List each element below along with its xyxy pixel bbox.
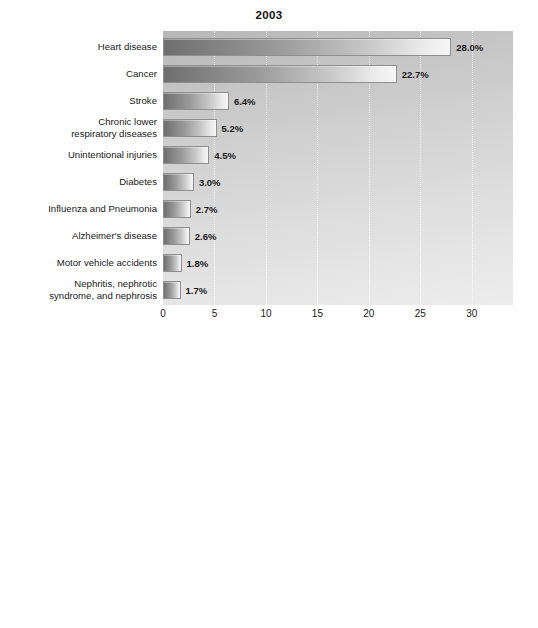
bar (163, 119, 217, 137)
bar (163, 200, 191, 218)
plot-area-2003: 28.0%22.7%6.4%5.2%4.5%3.0%2.7%2.6%1.8%1.… (163, 31, 513, 305)
category-label: Nephritis, nephroticsyndrome, and nephro… (0, 276, 157, 303)
bar-row: 6.4% (163, 92, 513, 110)
bar (163, 227, 190, 245)
bar (163, 146, 209, 164)
bar-value-label: 2.7% (196, 203, 218, 214)
bar-row: 28.0% (163, 38, 513, 56)
category-label-line: Heart disease (0, 41, 157, 52)
category-label-line: Motor vehicle accidents (0, 257, 157, 268)
bar (163, 65, 397, 83)
chart-1900: 1900 11.8%11.3%8.3%6.2%5.2%4.2%3.7%2.9%2… (0, 330, 538, 628)
bar (163, 254, 182, 272)
bar-row: 3.0% (163, 173, 513, 191)
bar-row: 4.5% (163, 146, 513, 164)
category-label-line: Influenza and Pneumonia (0, 203, 157, 214)
bar-series-2003: 28.0%22.7%6.4%5.2%4.5%3.0%2.7%2.6%1.8%1.… (163, 31, 513, 305)
bar-value-label: 1.7% (186, 284, 208, 295)
x-tick-label: 15 (312, 308, 323, 319)
category-labels-2003: Heart diseaseCancerStrokeChronic lowerre… (0, 31, 157, 305)
category-label-line: Stroke (0, 95, 157, 106)
category-label-line: Chronic lower (0, 116, 157, 127)
bar (163, 281, 181, 299)
bar-row: 1.7% (163, 281, 513, 299)
bar-row: 2.6% (163, 227, 513, 245)
category-label: Alzheimer's disease (0, 222, 157, 249)
chart-2003: 2003 28.0%22.7%6.4%5.2%4.5%3.0%2.7%2.6%1… (0, 0, 538, 330)
bar-value-label: 22.7% (402, 68, 429, 79)
x-axis-2003: 051015202530 (163, 306, 513, 322)
category-label-line: Unintentional injuries (0, 149, 157, 160)
category-label: Stroke (0, 87, 157, 114)
x-tick-label: 0 (160, 308, 166, 319)
bar-row: 2.7% (163, 200, 513, 218)
bar-row: 22.7% (163, 65, 513, 83)
bar (163, 38, 451, 56)
x-tick-label: 10 (260, 308, 271, 319)
category-label: Unintentional injuries (0, 141, 157, 168)
category-label: Influenza and Pneumonia (0, 195, 157, 222)
bar-value-label: 5.2% (222, 122, 244, 133)
bar-row: 5.2% (163, 119, 513, 137)
category-label: Motor vehicle accidents (0, 249, 157, 276)
category-label-line: respiratory diseases (0, 128, 157, 139)
category-label-line: Cancer (0, 68, 157, 79)
category-label-line: Diabetes (0, 176, 157, 187)
x-tick-label: 25 (415, 308, 426, 319)
x-tick-label: 30 (466, 308, 477, 319)
bar-row: 1.8% (163, 254, 513, 272)
category-label: Heart disease (0, 33, 157, 60)
chart-page: { "chart_data": [ { "type": "bar", "orie… (0, 0, 538, 628)
bar-value-label: 28.0% (456, 41, 483, 52)
category-label-line: syndrome, and nephrosis (0, 290, 157, 301)
x-tick-label: 20 (363, 308, 374, 319)
category-label: Chronic lowerrespiratory diseases (0, 114, 157, 141)
bar (163, 92, 229, 110)
bar-value-label: 4.5% (214, 149, 236, 160)
category-label-line: Nephritis, nephrotic (0, 278, 157, 289)
bar-value-label: 2.6% (195, 230, 217, 241)
bar-value-label: 3.0% (199, 176, 221, 187)
bar-value-label: 6.4% (234, 95, 256, 106)
bar (163, 173, 194, 191)
x-tick-label: 5 (212, 308, 218, 319)
bar-value-label: 1.8% (187, 257, 209, 268)
category-label-line: Alzheimer's disease (0, 230, 157, 241)
category-label: Diabetes (0, 168, 157, 195)
category-label: Cancer (0, 60, 157, 87)
chart-title-2003: 2003 (0, 9, 538, 21)
